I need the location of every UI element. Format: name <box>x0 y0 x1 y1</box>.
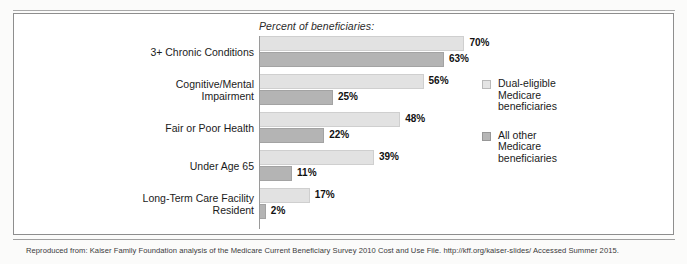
legend-label-line: beneficiaries <box>498 101 622 113</box>
bar-value-label: 22% <box>329 129 349 140</box>
category-label-line: Resident <box>54 204 254 216</box>
category-label-line: Cognitive/Mental <box>54 78 254 90</box>
bar-dual-eligible[interactable] <box>260 36 464 51</box>
bar-all-other[interactable] <box>260 52 444 67</box>
bar-dual-eligible[interactable] <box>260 74 424 89</box>
legend-item-other[interactable]: All otherMedicarebeneficiaries <box>482 130 622 165</box>
category-label-line: 3+ Chronic Conditions <box>54 46 254 58</box>
category-label: Long-Term Care FacilityResident <box>54 192 254 216</box>
category-label-line: Under Age 65 <box>54 160 254 172</box>
category-label: Cognitive/MentalImpairment <box>54 78 254 102</box>
legend-swatch-icon <box>482 132 491 141</box>
bar-value-label: 56% <box>429 75 449 86</box>
bar-value-label: 2% <box>271 205 285 216</box>
bar-all-other[interactable] <box>260 204 266 219</box>
category-label: Fair or Poor Health <box>54 122 254 134</box>
bar-value-label: 11% <box>297 167 316 178</box>
bar-all-other[interactable] <box>260 90 333 105</box>
footer-rule <box>13 239 675 240</box>
chart-header-label: Percent of beneficiaries: <box>259 20 374 32</box>
category-label-line: Long-Term Care Facility <box>54 192 254 204</box>
bar-value-label: 25% <box>338 91 358 102</box>
source-note: Reproduced from: Kaiser Family Foundatio… <box>26 246 619 255</box>
category-label: Under Age 65 <box>54 160 254 172</box>
bar-value-label: 48% <box>405 113 425 124</box>
bar-value-label: 39% <box>379 151 399 162</box>
figure-frame: Percent of beneficiaries: 3+ Chronic Con… <box>13 13 674 235</box>
bar-all-other[interactable] <box>260 128 324 143</box>
bar-value-label: 17% <box>315 189 335 200</box>
category-label: 3+ Chronic Conditions <box>54 46 254 58</box>
bar-all-other[interactable] <box>260 166 292 181</box>
bar-dual-eligible[interactable] <box>260 188 310 203</box>
bar-dual-eligible[interactable] <box>260 112 400 127</box>
chart-legend: Dual-eligibleMedicarebeneficiariesAll ot… <box>482 78 622 181</box>
legend-swatch-icon <box>482 80 491 89</box>
legend-label-line: Dual-eligible <box>498 78 622 90</box>
category-label-line: Impairment <box>54 90 254 102</box>
legend-label-line: beneficiaries <box>498 153 622 165</box>
page-rule-top <box>13 10 675 11</box>
bar-dual-eligible[interactable] <box>260 150 374 165</box>
bar-value-label: 63% <box>449 53 469 64</box>
bar-value-label: 70% <box>469 37 489 48</box>
legend-item-dual[interactable]: Dual-eligibleMedicarebeneficiaries <box>482 78 622 113</box>
legend-label-line: Medicare <box>498 141 622 153</box>
category-label-line: Fair or Poor Health <box>54 122 254 134</box>
